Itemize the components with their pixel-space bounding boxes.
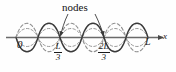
- node-position-label-l3: L 3: [54, 42, 62, 63]
- origin-label: 0: [17, 39, 23, 50]
- node-2l3-numerator: 2L: [98, 42, 110, 51]
- node-marker-l3: [59, 37, 61, 39]
- standing-wave-figure: nodes 0 L x L 3 2L 3: [0, 0, 176, 72]
- node-marker-2l3: [103, 37, 105, 39]
- x-axis-label: x: [163, 32, 167, 41]
- node-l3-denominator: 3: [55, 53, 62, 62]
- nodes-annotation-label: nodes: [62, 2, 88, 13]
- node-position-label-2l3: 2L 3: [98, 42, 110, 63]
- node-l3-numerator: L: [54, 42, 61, 51]
- length-end-label: L: [145, 37, 151, 47]
- node-2l3-denominator: 3: [101, 53, 108, 62]
